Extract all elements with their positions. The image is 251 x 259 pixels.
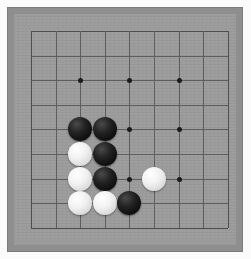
go-board-app [0,0,251,259]
white-stone-c3-r6[interactable] [68,142,92,166]
white-stone-c4-r8[interactable] [93,191,117,215]
black-stone-c3-r5[interactable] [68,117,92,141]
black-stone-c5-r8[interactable] [117,191,141,215]
white-stone-c3-r8[interactable] [68,191,92,215]
black-stone-c4-r5[interactable] [93,117,117,141]
black-stone-c4-r7[interactable] [93,167,117,191]
white-stone-c3-r7[interactable] [68,167,92,191]
white-stone-c6-r7[interactable] [142,167,166,191]
stone-layer [0,0,251,259]
black-stone-c4-r6[interactable] [93,142,117,166]
